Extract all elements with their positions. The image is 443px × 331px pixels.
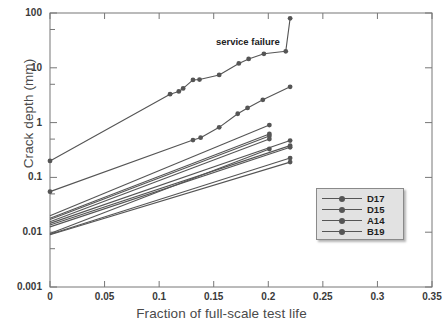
chart-legend[interactable]: D17 D15 A14 B19	[316, 188, 404, 240]
x-tick-label: 0.2	[248, 291, 288, 302]
x-tick-label: 0.3	[357, 291, 397, 302]
x-tick-label: 0	[30, 291, 70, 302]
legend-label: A14	[362, 215, 384, 226]
legend-label: D17	[362, 193, 384, 204]
y-axis-label: Crack depth (mm)	[21, 14, 36, 214]
x-tick-label: 0.1	[139, 291, 179, 302]
y-tick-label: 0.001	[2, 281, 42, 292]
y-tick-label: 0.1	[2, 171, 42, 182]
legend-line-marker-icon	[322, 226, 362, 237]
legend-label: B19	[362, 226, 384, 237]
legend-item-2[interactable]: A14	[322, 215, 398, 226]
y-tick-label: 1	[2, 117, 42, 128]
legend-item-3[interactable]: B19	[322, 226, 398, 237]
legend-line-marker-icon	[322, 215, 362, 226]
legend-item-0[interactable]: D17	[322, 193, 398, 204]
x-tick-label: 0.05	[85, 291, 125, 302]
x-tick-label: 0.25	[303, 291, 343, 302]
legend-item-1[interactable]: D15	[322, 204, 398, 215]
chart-figure: Crack depth (mm) Fraction of full-scale …	[0, 0, 443, 331]
y-tick-label: 0.01	[2, 226, 42, 237]
legend-line-marker-icon	[322, 204, 362, 215]
y-tick-label: 10	[2, 62, 42, 73]
annotation-service-failure: service failure	[216, 36, 280, 47]
x-tick-label: 0.35	[412, 291, 443, 302]
legend-line-marker-icon	[322, 193, 362, 204]
x-tick-label: 0.15	[194, 291, 234, 302]
legend-label: D15	[362, 204, 384, 215]
y-tick-label: 100	[2, 7, 42, 18]
x-axis-label: Fraction of full-scale test life	[0, 306, 443, 321]
chart-plot-area	[0, 0, 443, 331]
